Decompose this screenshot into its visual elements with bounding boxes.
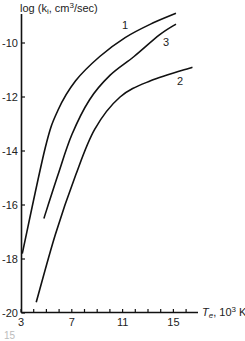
x-tick-label: 15 bbox=[167, 316, 179, 328]
x-tick-label: 7 bbox=[69, 316, 75, 328]
y-tick-label: -12 bbox=[2, 91, 18, 103]
curve-labels: 132 bbox=[122, 19, 183, 87]
curves bbox=[22, 13, 192, 302]
curve-label-3: 3 bbox=[163, 36, 169, 48]
y-tick-label: -20 bbox=[2, 307, 18, 319]
cropped-fragment-text: 15 bbox=[4, 330, 15, 341]
curve-1 bbox=[22, 13, 176, 253]
y-tick-label: -16 bbox=[2, 199, 18, 211]
y-tick-label: -14 bbox=[2, 145, 18, 157]
curve-label-1: 1 bbox=[122, 19, 128, 31]
x-tick-label: 3 bbox=[18, 316, 24, 328]
y-axis-title: log (ki, cm3/sec) bbox=[20, 1, 98, 16]
y-tick-label: -10 bbox=[2, 37, 18, 49]
curve-3 bbox=[44, 24, 176, 218]
x-tick-label: 11 bbox=[117, 316, 128, 328]
curve-label-2: 2 bbox=[177, 75, 183, 87]
y-tick-label: -18 bbox=[2, 253, 18, 265]
x-axis-title: Te, 103 K bbox=[202, 305, 245, 320]
curve-2 bbox=[36, 67, 192, 302]
axes bbox=[21, 14, 198, 313]
